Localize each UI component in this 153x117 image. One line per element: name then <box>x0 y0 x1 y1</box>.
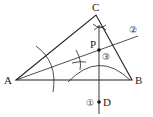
label-a: A <box>4 74 12 86</box>
construction-arc-a <box>36 46 54 92</box>
label-c: C <box>92 1 99 13</box>
label-b: B <box>135 74 142 86</box>
step-label-3: ③ <box>102 52 110 62</box>
label-p: P <box>90 38 96 50</box>
step-label-1: ① <box>86 98 94 108</box>
geometry-diagram: A B C P D ① ② ③ <box>0 0 153 117</box>
bisector-cross-mark <box>72 50 86 70</box>
step-label-2: ② <box>129 25 137 35</box>
triangle-abc <box>16 15 132 80</box>
label-d: D <box>103 96 111 108</box>
point-p <box>97 48 101 52</box>
point-d <box>97 100 101 104</box>
